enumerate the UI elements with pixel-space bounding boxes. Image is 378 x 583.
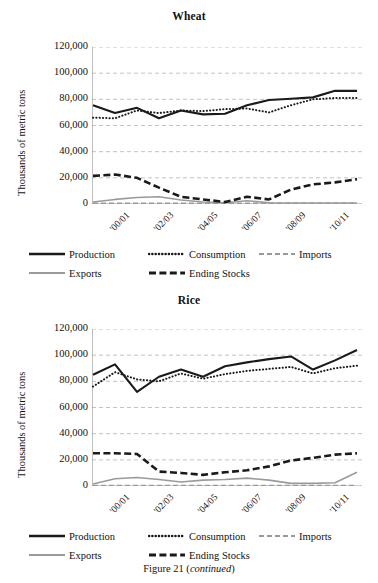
x-tick-label: '02/03 xyxy=(152,492,176,516)
series-line-production xyxy=(93,91,357,118)
legend-label: Consumption xyxy=(186,249,246,260)
legend-swatch-icon xyxy=(28,530,66,542)
legend-label: Production xyxy=(66,249,115,260)
rice-plot-svg xyxy=(92,329,362,486)
legend-swatch-icon xyxy=(28,549,66,561)
legend-label: Exports xyxy=(66,268,102,279)
legend-swatch-icon xyxy=(28,248,66,260)
y-tick-label: 60,000 xyxy=(59,401,88,412)
y-tick-label: 100,000 xyxy=(54,348,88,359)
legend-item-ending-stocks[interactable]: Ending Stocks xyxy=(148,267,250,279)
y-tick-label: 0 xyxy=(83,197,88,208)
y-tick-label: 120,000 xyxy=(54,40,88,51)
legend-swatch-icon xyxy=(258,248,296,260)
x-tick-label: '00/01 xyxy=(108,492,132,516)
legend-item-production[interactable]: Production xyxy=(28,530,115,542)
wheat-y-axis-label: Thousands of metric tons xyxy=(16,90,27,196)
legend-item-ending-stocks[interactable]: Ending Stocks xyxy=(148,549,250,561)
legend-swatch-icon xyxy=(258,530,296,542)
x-tick-label: '06/07 xyxy=(240,210,264,234)
legend-item-production[interactable]: Production xyxy=(28,248,115,260)
legend-item-imports[interactable]: Imports xyxy=(258,530,332,542)
figure-caption: Figure 21 (continued) xyxy=(0,563,378,574)
rice-chart-figure: Rice Thousands of metric tons 020,00040,… xyxy=(0,288,378,560)
legend-label: Ending Stocks xyxy=(186,268,250,279)
wheat-plot-svg xyxy=(92,47,362,204)
legend-label: Production xyxy=(66,531,115,542)
legend-swatch-icon xyxy=(28,267,66,279)
x-tick-label: '10/11 xyxy=(328,492,351,515)
x-tick-label: '06/07 xyxy=(240,492,264,516)
legend-swatch-icon xyxy=(148,530,186,542)
legend-row: ExportsEnding Stocks xyxy=(0,547,378,563)
caption-emphasis: continued xyxy=(190,563,231,574)
legend-row: ProductionConsumptionImports xyxy=(0,246,378,262)
legend-row: ProductionConsumptionImports xyxy=(0,528,378,544)
x-tick-label: '04/05 xyxy=(196,492,220,516)
y-tick-label: 40,000 xyxy=(59,427,88,438)
legend-swatch-icon xyxy=(148,267,186,279)
legend-swatch-icon xyxy=(148,549,186,561)
legend-item-imports[interactable]: Imports xyxy=(258,248,332,260)
y-tick-label: 100,000 xyxy=(54,66,88,77)
wheat-chart-title: Wheat xyxy=(0,10,378,22)
legend-label: Consumption xyxy=(186,531,246,542)
legend-swatch-icon xyxy=(148,248,186,260)
legend-item-exports[interactable]: Exports xyxy=(28,549,102,561)
y-tick-label: 20,000 xyxy=(59,453,88,464)
series-line-exports xyxy=(93,472,357,484)
y-tick-label: 80,000 xyxy=(59,92,88,103)
wheat-legend: ProductionConsumptionImportsExportsEndin… xyxy=(0,246,378,284)
rice-y-axis-label: Thousands of metric tons xyxy=(16,372,27,478)
legend-label: Exports xyxy=(66,550,102,561)
legend-item-consumption[interactable]: Consumption xyxy=(148,530,246,542)
series-line-production xyxy=(93,350,357,392)
x-tick-label: '10/11 xyxy=(328,210,351,233)
legend-label: Ending Stocks xyxy=(186,550,250,561)
y-tick-label: 40,000 xyxy=(59,145,88,156)
y-tick-label: 0 xyxy=(83,479,88,490)
rice-plot-area xyxy=(92,329,362,486)
y-tick-label: 60,000 xyxy=(59,119,88,130)
legend-row: ExportsEnding Stocks xyxy=(0,265,378,281)
caption-text: Figure 21 ( xyxy=(143,563,190,574)
legend-item-exports[interactable]: Exports xyxy=(28,267,102,279)
x-tick-label: '00/01 xyxy=(108,210,132,234)
rice-chart-title: Rice xyxy=(0,294,378,306)
caption-text-end: ) xyxy=(231,563,235,574)
legend-label: Imports xyxy=(296,531,332,542)
x-tick-label: '02/03 xyxy=(152,210,176,234)
x-tick-label: '08/09 xyxy=(284,210,308,234)
legend-label: Imports xyxy=(296,249,332,260)
x-tick-label: '04/05 xyxy=(196,210,220,234)
rice-legend: ProductionConsumptionImportsExportsEndin… xyxy=(0,528,378,566)
y-tick-label: 20,000 xyxy=(59,171,88,182)
y-tick-label: 120,000 xyxy=(54,322,88,333)
y-tick-label: 80,000 xyxy=(59,374,88,385)
wheat-chart-figure: Wheat Thousands of metric tons 020,00040… xyxy=(0,0,378,288)
legend-item-consumption[interactable]: Consumption xyxy=(148,248,246,260)
figure-page: Wheat Thousands of metric tons 020,00040… xyxy=(0,0,378,583)
x-tick-label: '08/09 xyxy=(284,492,308,516)
wheat-plot-area xyxy=(92,47,362,204)
series-line-ending-stocks xyxy=(93,453,357,475)
